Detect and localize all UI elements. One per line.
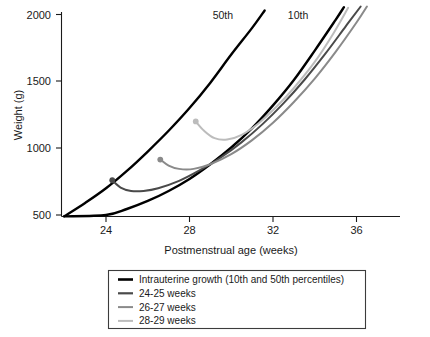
series-intrauterine-growth-10th-percentile [64, 7, 344, 216]
legend: Intrauterine growth (10th and 50th perce… [109, 271, 366, 329]
x-tick-label-28: 28 [183, 224, 195, 236]
series-line-28-29-weeks [196, 8, 348, 140]
growth-chart-figure: 2000 1500 1000 500 Weight (g) 24 28 32 3… [0, 0, 430, 337]
legend-label-24-25-weeks: 24-25 weeks [139, 288, 196, 299]
series-line-24-25-weeks [112, 6, 360, 191]
y-tick-label-500: 500 [33, 209, 51, 221]
curve-label-50th: 50th [213, 9, 234, 21]
start-marker-28-29-weeks [193, 119, 199, 125]
start-marker-24-25-weeks [109, 177, 115, 183]
x-tick-label-24: 24 [100, 224, 112, 236]
legend-item-intrauterine-growth-10th-and-50th-percentiles[interactable]: Intrauterine growth (10th and 50th perce… [118, 274, 344, 285]
x-axis-title: Postmenstrual age (weeks) [164, 244, 297, 256]
y-tick-label-1000: 1000 [27, 142, 51, 154]
series-layer [64, 6, 367, 216]
y-axis: 2000 1500 1000 500 Weight (g) [12, 9, 62, 222]
legend-label-intrauterine-growth-10th-and-50th-percentiles: Intrauterine growth (10th and 50th perce… [139, 274, 344, 285]
series-24-25-weeks [109, 6, 360, 191]
curve-label-10th: 10th [288, 9, 309, 21]
start-marker-26-27-weeks [157, 157, 163, 163]
y-tick-label-2000: 2000 [27, 9, 51, 21]
x-axis: 24 28 32 36 Postmenstrual age (weeks) [62, 217, 401, 257]
series-line-intrauterine-growth-10th-percentile [64, 7, 344, 216]
y-tick-label-1500: 1500 [27, 75, 51, 87]
y-axis-title: Weight (g) [12, 90, 24, 141]
chart-canvas: 2000 1500 1000 500 Weight (g) 24 28 32 3… [0, 0, 430, 337]
x-tick-label-36: 36 [350, 224, 362, 236]
x-tick-label-32: 32 [267, 224, 279, 236]
legend-label-26-27-weeks: 26-27 weeks [139, 302, 196, 313]
legend-label-28-29-weeks: 28-29 weeks [139, 315, 196, 326]
